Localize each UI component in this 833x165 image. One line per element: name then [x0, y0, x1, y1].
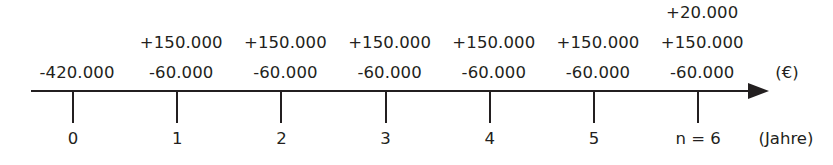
outflow-label-0: -420.000 — [40, 63, 115, 83]
inflow-label-4: +150.000 — [452, 33, 535, 53]
inflow-label-6: +150.000 — [661, 33, 744, 53]
outflow-label-2: -60.000 — [253, 63, 317, 83]
timeline-tick-4 — [489, 91, 491, 123]
outflow-label-6: -60.000 — [670, 63, 734, 83]
period-label-2: 2 — [276, 129, 287, 149]
period-label-0: 0 — [68, 129, 79, 149]
timeline-tick-1 — [176, 91, 178, 123]
outflow-label-4: -60.000 — [462, 63, 526, 83]
inflow-label-3: +150.000 — [348, 33, 431, 53]
period-label-1: 1 — [172, 129, 183, 149]
inflow-label-2: +150.000 — [244, 33, 327, 53]
timeline-tick-6 — [697, 91, 699, 123]
period-label-5: 5 — [589, 129, 600, 149]
timeline-axis — [31, 90, 753, 92]
currency-unit-label: (€) — [775, 63, 798, 83]
timeline-tick-3 — [385, 91, 387, 123]
outflow-label-3: -60.000 — [357, 63, 421, 83]
period-label-4: 4 — [485, 129, 496, 149]
cash-flow-timeline-diagram: -420.000+150.000-60.000+150.000-60.000+1… — [0, 0, 833, 165]
inflow-label-1: +150.000 — [140, 33, 223, 53]
outflow-label-5: -60.000 — [566, 63, 630, 83]
axis-arrow-icon — [748, 83, 769, 99]
period-label-6: n = 6 — [676, 129, 721, 149]
inflow-label-5: +150.000 — [557, 33, 640, 53]
timeline-tick-0 — [72, 91, 74, 123]
time-unit-label: (Jahre) — [759, 129, 814, 149]
outflow-label-1: -60.000 — [149, 63, 213, 83]
residual-value-label-6: +20.000 — [666, 3, 738, 23]
timeline-tick-2 — [280, 91, 282, 123]
timeline-tick-5 — [593, 91, 595, 123]
period-label-3: 3 — [380, 129, 391, 149]
